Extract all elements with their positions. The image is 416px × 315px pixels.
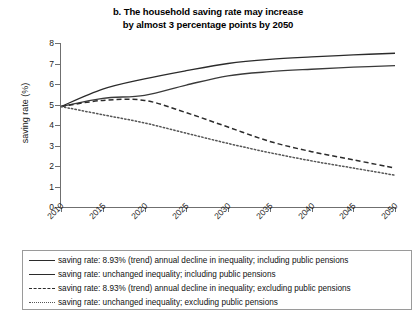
line-style-solid-icon	[29, 256, 55, 265]
chart-series-line	[61, 53, 395, 106]
chart-legend: saving rate: 8.93% (trend) annual declin…	[22, 250, 412, 310]
line-style-dashed-icon	[29, 284, 55, 293]
chart-series-line	[61, 99, 395, 168]
legend-item-label: saving rate: 8.93% (trend) annual declin…	[58, 256, 348, 265]
figure-panel-b: b. The household saving rate may increas…	[0, 0, 416, 315]
legend-item-label: saving rate: unchanged inequality; exclu…	[58, 298, 278, 307]
line-style-dotted-icon	[29, 298, 55, 307]
legend-item-label: saving rate: 8.93% (trend) annual declin…	[58, 284, 351, 293]
legend-item[interactable]: saving rate: unchanged inequality; inclu…	[29, 267, 276, 281]
chart-series-line	[61, 107, 395, 176]
legend-item[interactable]: saving rate: 8.93% (trend) annual declin…	[29, 281, 351, 295]
line-style-solid-icon	[29, 270, 55, 279]
legend-item-label: saving rate: unchanged inequality; inclu…	[58, 270, 276, 279]
legend-item[interactable]: saving rate: unchanged inequality; exclu…	[29, 295, 278, 309]
legend-item[interactable]: saving rate: 8.93% (trend) annual declin…	[29, 253, 348, 267]
